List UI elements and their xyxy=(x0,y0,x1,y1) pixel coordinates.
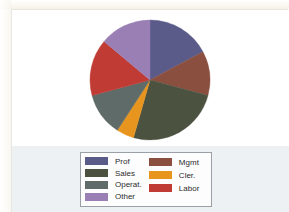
legend-swatch-cler xyxy=(149,171,172,179)
legend-label-operat: Operat. xyxy=(115,180,142,189)
legend-swatch-labor xyxy=(149,184,172,192)
pie-slice-group xyxy=(90,20,210,140)
chart-legend: Prof Sales Operat. Other xyxy=(80,152,212,207)
pie-chart-svg xyxy=(89,19,211,141)
legend-column-left: Prof Sales Operat. Other xyxy=(85,156,149,203)
legend-swatch-operat xyxy=(85,181,108,189)
scanned-page: Prof Sales Operat. Other xyxy=(0,0,289,212)
legend-column-right: Mgmt Cler. Labor xyxy=(149,156,207,203)
legend-item-operat[interactable]: Operat. xyxy=(85,180,149,191)
chart-figure: Prof Sales Operat. Other xyxy=(11,9,288,212)
pie-chart xyxy=(89,19,211,141)
legend-label-other: Other xyxy=(115,192,135,201)
legend-band: Prof Sales Operat. Other xyxy=(12,146,289,212)
legend-item-cler[interactable]: Cler. xyxy=(149,169,207,181)
legend-label-prof: Prof xyxy=(115,157,130,166)
legend-label-sales: Sales xyxy=(115,169,135,178)
legend-swatch-sales xyxy=(85,169,108,177)
paper-edge-top xyxy=(0,0,289,9)
legend-item-sales[interactable]: Sales xyxy=(85,168,149,179)
legend-swatch-mgmt xyxy=(149,158,172,166)
pie-plot-area xyxy=(12,10,289,146)
legend-label-labor: Labor xyxy=(179,184,199,193)
legend-item-other[interactable]: Other xyxy=(85,191,149,202)
legend-item-prof[interactable]: Prof xyxy=(85,156,149,167)
legend-label-mgmt: Mgmt xyxy=(179,158,199,167)
legend-swatch-prof xyxy=(85,157,108,165)
legend-item-mgmt[interactable]: Mgmt xyxy=(149,156,207,168)
legend-swatch-other xyxy=(85,193,108,201)
legend-item-labor[interactable]: Labor xyxy=(149,182,207,194)
paper-edge-left xyxy=(0,0,11,212)
legend-label-cler: Cler. xyxy=(179,171,195,180)
